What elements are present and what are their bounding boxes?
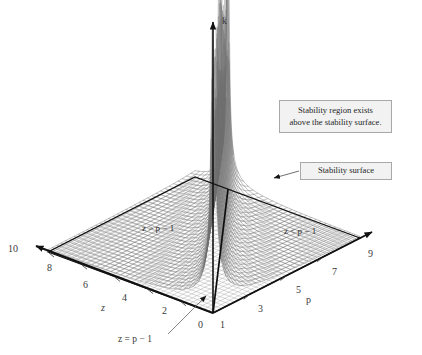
singular-line-label: z = p − 1 [118,334,152,344]
stability-surface-leader [274,171,299,178]
z-tick-label-6: 6 [83,279,88,290]
k-axis-label: k [222,15,227,26]
figure-container: 10 8 6 4 2 0 1 3 5 7 9 k z p z > p − 1 z… [0,0,422,355]
stability-surface-mesh [48,0,360,289]
z-axis-label: z [100,302,105,313]
region-label-left: z > p − 1 [142,223,174,233]
p-tick-label-5: 5 [296,284,301,295]
p-tick-label-9: 9 [368,248,373,259]
z-tick-label-8: 8 [47,262,52,273]
z-tick-label-10: 10 [8,243,18,254]
z-tick-label-2: 2 [162,305,167,316]
region-label-right: z < p − 1 [284,226,316,236]
callout-stability-surface: Stability surface [300,162,392,180]
callout-stability-region: Stability region exists above the stabil… [279,100,392,133]
p-tick-label-3: 3 [258,303,263,314]
p-tick-label-1: 1 [220,319,225,330]
p-axis-label: p [306,294,311,305]
z-tick-label-0: 0 [198,319,203,330]
p-tick-label-7: 7 [332,266,337,277]
z-tick-label-4: 4 [122,292,127,303]
